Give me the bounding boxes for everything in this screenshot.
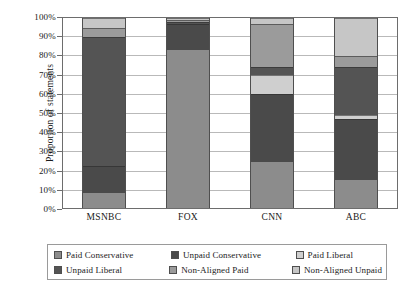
y-axis-tick-label: 30% xyxy=(16,146,56,156)
y-axis-tick-label: 10% xyxy=(16,185,56,195)
y-axis-tick-label: 0% xyxy=(16,204,56,214)
legend-item[interactable]: Paid Liberal xyxy=(296,250,380,260)
y-axis-tick-label: 20% xyxy=(16,166,56,176)
legend-swatch-icon xyxy=(292,266,300,274)
plot-frame xyxy=(62,17,398,209)
plot-area xyxy=(62,17,398,209)
x-axis-tick-label-cnn: CNN xyxy=(232,212,312,222)
y-axis-tick-label: 70% xyxy=(16,70,56,80)
legend-label: Non-Aligned Paid xyxy=(181,265,248,275)
legend-swatch-icon xyxy=(296,251,304,259)
y-axis-tick-label: 100% xyxy=(16,12,56,22)
legend-row-1: Paid ConservativeUnpaid ConservativePaid… xyxy=(54,247,380,262)
legend-swatch-icon xyxy=(169,266,177,274)
legend-label: Paid Conservative xyxy=(66,250,133,260)
stacked-bar-chart: Proportion of statements 0%10%20%30%40%5… xyxy=(0,0,419,288)
legend-label: Non-Aligned Unpaid xyxy=(304,265,382,275)
y-axis-tick-label: 40% xyxy=(16,127,56,137)
legend-row-2: Unpaid LiberalNon-Aligned PaidNon-Aligne… xyxy=(54,262,380,277)
y-axis-tick-label: 80% xyxy=(16,50,56,60)
legend-item[interactable]: Non-Aligned Unpaid xyxy=(292,265,380,275)
x-axis-tick-label-abc: ABC xyxy=(316,212,396,222)
legend-label: Unpaid Liberal xyxy=(66,265,122,275)
legend-item[interactable]: Non-Aligned Paid xyxy=(169,265,292,275)
y-axis-tick-mark xyxy=(57,209,62,210)
legend-swatch-icon xyxy=(54,266,62,274)
legend-item[interactable]: Paid Conservative xyxy=(54,250,171,260)
chart-legend: Paid ConservativeUnpaid ConservativePaid… xyxy=(47,244,387,280)
x-axis-tick-label-msnbc: MSNBC xyxy=(64,212,144,222)
legend-label: Unpaid Conservative xyxy=(183,250,261,260)
legend-item[interactable]: Unpaid Conservative xyxy=(171,250,296,260)
x-axis-tick-label-fox: FOX xyxy=(148,212,228,222)
legend-label: Paid Liberal xyxy=(308,250,353,260)
legend-swatch-icon xyxy=(171,251,179,259)
legend-swatch-icon xyxy=(54,251,62,259)
y-axis-tick-label: 90% xyxy=(16,31,56,41)
x-axis-tick-labels: MSNBCFOXCNNABC xyxy=(62,212,398,230)
y-axis-tick-label: 60% xyxy=(16,89,56,99)
legend-item[interactable]: Unpaid Liberal xyxy=(54,265,169,275)
y-axis-tick-label: 50% xyxy=(16,108,56,118)
